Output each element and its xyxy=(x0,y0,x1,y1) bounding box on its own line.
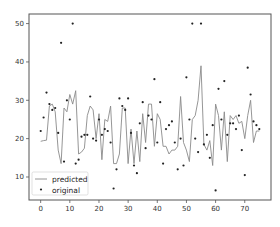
original-point xyxy=(66,99,68,101)
original-point xyxy=(229,122,231,124)
original-point xyxy=(43,116,45,118)
original-point xyxy=(177,168,179,170)
original-point xyxy=(185,76,187,78)
predicted-line xyxy=(41,66,260,166)
original-point xyxy=(124,109,126,111)
y-tick-label: 20 xyxy=(15,135,24,143)
y-tick-labels: 1020304050 xyxy=(15,20,29,181)
original-point xyxy=(197,151,199,153)
y-tick-label: 30 xyxy=(15,97,24,105)
original-point xyxy=(89,95,91,97)
original-point xyxy=(215,189,217,191)
original-point xyxy=(156,141,158,143)
original-point xyxy=(241,149,243,151)
x-tick-label: 0 xyxy=(38,205,42,213)
x-tick-label: 40 xyxy=(153,205,162,213)
x-tick-label: 30 xyxy=(124,205,133,213)
original-point xyxy=(235,128,237,130)
original-point xyxy=(206,134,208,136)
y-tick-label: 10 xyxy=(15,173,24,181)
original-point xyxy=(83,134,85,136)
x-tick-label: 50 xyxy=(182,205,191,213)
original-point xyxy=(130,132,132,134)
original-point xyxy=(54,107,56,109)
original-point xyxy=(63,161,65,163)
original-point xyxy=(80,136,82,138)
original-points xyxy=(40,23,261,192)
original-point xyxy=(212,124,214,126)
original-point xyxy=(223,80,225,82)
x-tick-label: 20 xyxy=(95,205,104,213)
original-point xyxy=(98,118,100,120)
original-point xyxy=(69,118,71,120)
original-point xyxy=(78,159,80,161)
original-point xyxy=(57,132,59,134)
original-point xyxy=(51,109,53,111)
x-tick-label: 60 xyxy=(211,205,220,213)
original-point xyxy=(150,118,152,120)
original-point xyxy=(252,120,254,122)
original-point xyxy=(209,157,211,159)
original-point xyxy=(133,164,135,166)
y-tick-label: 40 xyxy=(15,58,24,66)
original-point xyxy=(188,118,190,120)
original-point xyxy=(255,124,257,126)
chart: 1020304050 010203040506070 predicted ori… xyxy=(0,0,280,227)
original-point xyxy=(238,115,240,117)
legend: predicted original xyxy=(32,172,88,195)
original-point xyxy=(180,138,182,140)
original-point xyxy=(115,168,117,170)
original-point xyxy=(226,134,228,136)
original-point xyxy=(127,97,129,99)
original-point xyxy=(232,122,234,124)
original-point xyxy=(60,42,62,44)
original-point xyxy=(121,105,123,107)
original-point xyxy=(139,122,141,124)
original-point xyxy=(194,138,196,140)
original-point xyxy=(45,92,47,94)
original-point xyxy=(153,78,155,80)
original-point xyxy=(171,120,173,122)
original-point xyxy=(40,130,42,132)
original-point xyxy=(136,172,138,174)
original-point xyxy=(244,174,246,176)
original-point xyxy=(95,140,97,142)
original-point xyxy=(101,134,103,136)
original-point xyxy=(200,23,202,25)
original-point xyxy=(174,141,176,143)
original-point xyxy=(72,23,74,25)
legend-label-original: original xyxy=(52,186,80,195)
original-point xyxy=(247,67,249,69)
original-point xyxy=(220,118,222,120)
original-point xyxy=(86,134,88,136)
original-point xyxy=(110,141,112,143)
legend-dot-icon xyxy=(40,188,42,190)
original-point xyxy=(92,138,94,140)
original-point xyxy=(165,128,167,130)
x-tick-label: 10 xyxy=(65,205,74,213)
plot-area xyxy=(40,23,261,192)
original-point xyxy=(182,164,184,166)
original-point xyxy=(75,163,77,165)
original-point xyxy=(191,23,193,25)
original-point xyxy=(145,147,147,149)
original-point xyxy=(258,128,260,130)
original-point xyxy=(104,128,106,130)
original-point xyxy=(250,93,252,95)
x-tick-label: 70 xyxy=(240,205,249,213)
original-point xyxy=(203,143,205,145)
legend-label-predicted: predicted xyxy=(52,175,88,184)
original-point xyxy=(113,187,115,189)
x-tick-labels: 010203040506070 xyxy=(38,200,249,213)
original-point xyxy=(147,115,149,117)
original-point xyxy=(162,163,164,165)
original-point xyxy=(107,130,109,132)
original-point xyxy=(159,101,161,103)
original-point xyxy=(217,88,219,90)
original-point xyxy=(168,124,170,126)
original-point xyxy=(118,97,120,99)
original-point xyxy=(48,103,50,105)
original-point xyxy=(142,101,144,103)
y-tick-label: 50 xyxy=(15,20,24,28)
